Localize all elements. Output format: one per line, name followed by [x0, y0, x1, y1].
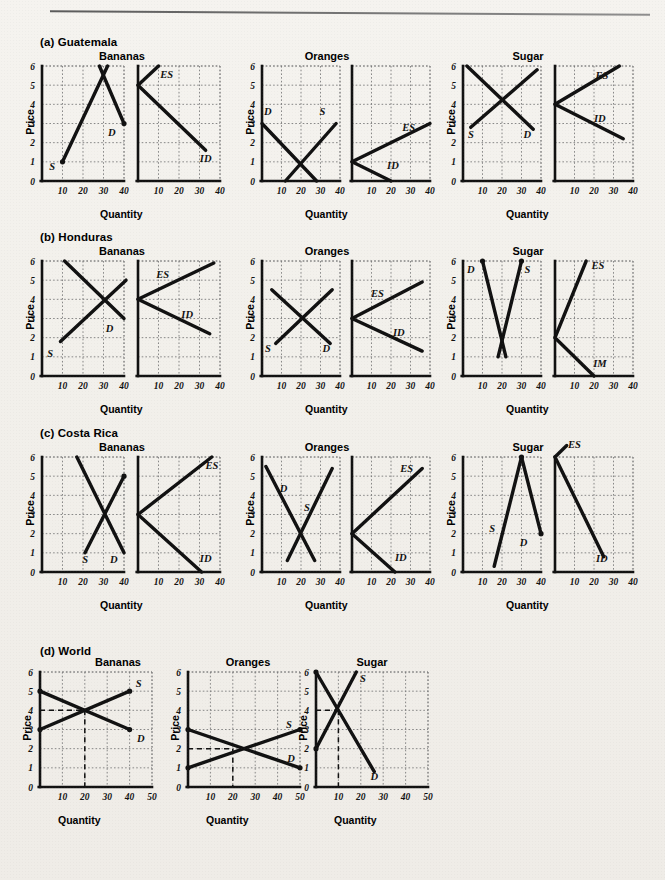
- svg-text:4: 4: [29, 491, 35, 501]
- group-title-c-2: Sugar: [493, 441, 563, 453]
- curve-label-ES: ES: [401, 122, 415, 133]
- svg-text:20: 20: [173, 381, 184, 391]
- svg-text:4: 4: [249, 491, 255, 501]
- curve-label-ID: ID: [386, 160, 399, 171]
- svg-text:3: 3: [450, 510, 456, 520]
- svg-text:20: 20: [295, 186, 306, 196]
- panel-a-oranges-domestic: 012345610203040DS: [262, 66, 362, 203]
- svg-text:2: 2: [29, 138, 35, 148]
- svg-text:20: 20: [588, 186, 599, 196]
- svg-text:20: 20: [77, 186, 88, 196]
- panel-b-sugar-trade: 10203040ESIM: [555, 261, 655, 398]
- svg-text:10: 10: [277, 381, 287, 391]
- svg-text:1: 1: [30, 352, 35, 362]
- curve-S: [498, 261, 521, 357]
- x-axis-label-d-0: Quantity: [58, 814, 101, 826]
- svg-text:30: 30: [194, 577, 205, 587]
- curve-label-ID: ID: [199, 153, 212, 164]
- svg-text:40: 40: [118, 577, 129, 587]
- curve-ID: [352, 534, 395, 572]
- panel-a-bananas-domestic: 012345610203040SD: [42, 66, 146, 203]
- svg-text:6: 6: [176, 668, 181, 678]
- svg-text:40: 40: [334, 381, 345, 391]
- curve-label-D: D: [136, 733, 145, 744]
- curve-D: [316, 672, 374, 772]
- group-title-b-0: Bananas: [87, 245, 157, 257]
- svg-text:40: 40: [334, 186, 345, 196]
- svg-text:50: 50: [295, 792, 305, 802]
- svg-text:10: 10: [58, 577, 68, 587]
- curve-label-S: S: [47, 348, 53, 359]
- svg-text:2: 2: [450, 333, 456, 343]
- svg-text:5: 5: [250, 81, 255, 91]
- row-label-a: (a) Guatemala: [40, 36, 117, 48]
- svg-text:20: 20: [77, 577, 88, 587]
- svg-text:20: 20: [355, 792, 366, 802]
- curve-label-ES: ES: [590, 260, 604, 271]
- curve-label-D: D: [105, 323, 114, 334]
- svg-text:5: 5: [28, 687, 33, 697]
- svg-text:6: 6: [250, 453, 255, 463]
- svg-text:40: 40: [118, 381, 129, 391]
- curve-label-D: D: [369, 771, 378, 782]
- curve-label-S: S: [360, 673, 366, 684]
- svg-text:10: 10: [570, 577, 580, 587]
- curve-label-S: S: [489, 523, 495, 534]
- panel-b-oranges-domestic: 012345610203040SD: [262, 261, 362, 398]
- svg-text:6: 6: [30, 62, 35, 72]
- svg-text:50: 50: [423, 792, 433, 802]
- svg-text:2: 2: [450, 138, 456, 148]
- svg-text:5: 5: [30, 472, 35, 482]
- svg-text:6: 6: [451, 453, 456, 463]
- curve-ES: [352, 282, 422, 318]
- svg-text:10: 10: [58, 381, 68, 391]
- svg-text:0: 0: [28, 783, 33, 793]
- svg-text:0: 0: [30, 568, 35, 578]
- svg-text:1: 1: [304, 763, 309, 773]
- svg-text:10: 10: [206, 792, 216, 802]
- curve-ES: [138, 263, 214, 299]
- svg-text:40: 40: [627, 186, 638, 196]
- svg-text:40: 40: [627, 577, 638, 587]
- curve-label-ID: ID: [199, 553, 212, 564]
- curve-label-ES: ES: [204, 460, 218, 471]
- panel-c-sugar-trade: 10203040ESID: [555, 457, 655, 594]
- panel-c-sugar-domestic: 012345610203040SD: [463, 457, 563, 594]
- panel-c-oranges-domestic: 012345610203040DS: [262, 457, 362, 594]
- svg-text:0: 0: [451, 568, 456, 578]
- svg-text:6: 6: [30, 453, 35, 463]
- curve-ES: [138, 66, 159, 85]
- svg-text:2: 2: [175, 744, 181, 754]
- svg-text:10: 10: [367, 577, 377, 587]
- svg-text:1: 1: [451, 352, 456, 362]
- svg-text:4: 4: [29, 100, 35, 110]
- svg-text:40: 40: [627, 381, 638, 391]
- curve-D: [77, 457, 124, 553]
- svg-text:0: 0: [451, 177, 456, 187]
- svg-text:30: 30: [194, 381, 205, 391]
- svg-text:5: 5: [30, 81, 35, 91]
- svg-text:50: 50: [147, 792, 157, 802]
- x-axis-label-d-1: Quantity: [206, 814, 249, 826]
- curve-label-S: S: [320, 106, 326, 117]
- svg-text:40: 40: [535, 381, 546, 391]
- svg-text:30: 30: [315, 186, 326, 196]
- svg-text:40: 40: [214, 577, 225, 587]
- svg-text:10: 10: [478, 186, 488, 196]
- row-label-c: (c) Costa Rica: [40, 427, 118, 439]
- curve-label-D: D: [263, 106, 272, 117]
- svg-text:10: 10: [367, 381, 377, 391]
- curve-label-D: D: [322, 343, 331, 354]
- svg-text:4: 4: [249, 295, 255, 305]
- svg-text:2: 2: [29, 529, 35, 539]
- svg-text:4: 4: [450, 100, 456, 110]
- curve-label-S: S: [524, 264, 530, 275]
- svg-text:30: 30: [608, 381, 619, 391]
- curve-label-ES: ES: [399, 463, 413, 474]
- group-title-a-0: Bananas: [87, 50, 157, 62]
- panel-c-bananas-domestic: 012345610203040SD: [42, 457, 146, 594]
- curve-D: [467, 66, 533, 129]
- svg-text:3: 3: [175, 725, 181, 735]
- panel-c-bananas-trade: 10203040ESID: [138, 457, 242, 594]
- curve-label-D: D: [107, 127, 116, 138]
